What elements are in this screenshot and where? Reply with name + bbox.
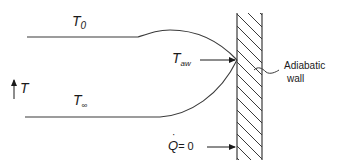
t-axis-label: T — [20, 80, 29, 96]
adiabatic-wall-label: Adiabatic wall — [284, 59, 325, 85]
q-symbol: Q — [168, 138, 178, 153]
q-zero-label: Q · = 0 — [168, 138, 194, 153]
t0-subscript: 0 — [81, 20, 87, 31]
wall-label-line2: wall — [284, 72, 325, 85]
tinf-profile-curve — [25, 60, 237, 117]
taw-label: Taw — [172, 50, 191, 66]
t0-symbol: T — [72, 13, 81, 29]
t0-label: T0 — [72, 13, 86, 29]
q-dot-symbol: Q · — [168, 138, 178, 153]
tinf-label: T∞ — [73, 92, 87, 108]
tinf-symbol: T — [73, 92, 82, 108]
taw-symbol: T — [172, 50, 181, 66]
adiabatic-wall — [237, 0, 262, 165]
taw-subscript: aw — [181, 59, 191, 68]
t0-profile-curve — [27, 30, 237, 60]
q-dot: · — [172, 129, 175, 140]
wall-label-line1: Adiabatic — [284, 59, 325, 72]
tinf-subscript: ∞ — [82, 101, 88, 110]
q-equals-zero: = 0 — [178, 140, 194, 152]
